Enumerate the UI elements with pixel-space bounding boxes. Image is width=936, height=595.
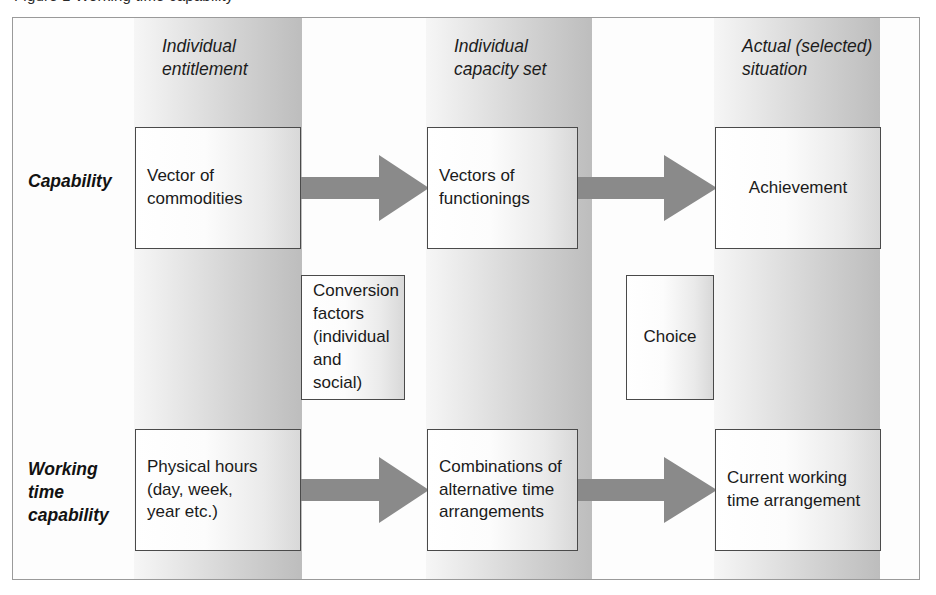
- figure-caption-strip: Figure 1 Working time capability: [0, 0, 936, 5]
- row-label-working-time-capability: Working time capability: [28, 458, 109, 526]
- figure-caption-text: Figure 1 Working time capability: [0, 0, 936, 5]
- node-vector-of-commodities-label: Vector of commodities: [136, 165, 300, 211]
- column-header-actual-selected-situation: Actual (selected) situation: [742, 35, 872, 81]
- node-choice-label: Choice: [627, 326, 713, 349]
- node-combinations-of-alternative-time-arrangements[interactable]: Combinations of alternative time arrange…: [427, 429, 578, 551]
- row-label-capability: Capability: [28, 170, 112, 193]
- arrow-right-combinations-to-current-arrangement: [578, 453, 717, 527]
- node-conversion-factors[interactable]: Conversion factors (individual and socia…: [301, 275, 405, 400]
- node-current-working-time-arrangement-label: Current working time arrangement: [716, 467, 880, 513]
- arrow-right-functionings-to-achievement: [578, 151, 717, 225]
- node-achievement[interactable]: Achievement: [715, 127, 881, 249]
- node-achievement-label: Achievement: [716, 177, 880, 200]
- node-physical-hours-label: Physical hours (day, week, year etc.): [136, 456, 300, 525]
- node-choice[interactable]: Choice: [626, 275, 714, 400]
- node-vector-of-commodities[interactable]: Vector of commodities: [135, 127, 301, 249]
- node-vectors-of-functionings-label: Vectors of functionings: [428, 165, 577, 211]
- node-conversion-factors-label: Conversion factors (individual and socia…: [302, 280, 404, 395]
- node-combinations-label: Combinations of alternative time arrange…: [428, 456, 577, 525]
- node-vectors-of-functionings[interactable]: Vectors of functionings: [427, 127, 578, 249]
- column-header-individual-capacity-set: Individual capacity set: [454, 35, 546, 81]
- node-physical-hours[interactable]: Physical hours (day, week, year etc.): [135, 429, 301, 551]
- column-header-individual-entitlement: Individual entitlement: [162, 35, 248, 81]
- node-current-working-time-arrangement[interactable]: Current working time arrangement: [715, 429, 881, 551]
- arrow-right-commodities-to-functionings: [301, 151, 429, 225]
- arrow-right-hours-to-combinations: [301, 453, 429, 527]
- capability-framework-diagram: Individual entitlement Individual capaci…: [12, 17, 920, 580]
